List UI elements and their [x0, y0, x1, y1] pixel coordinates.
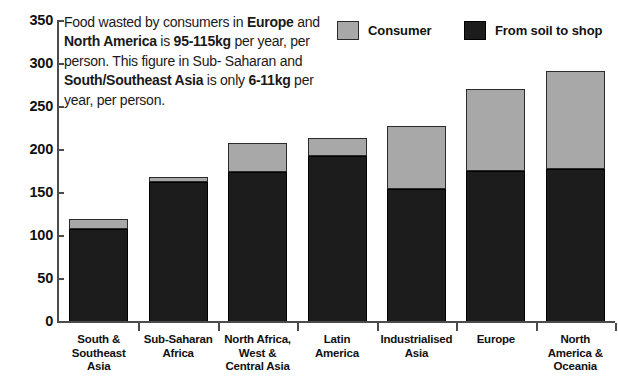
- x-axis-tick: [138, 323, 140, 331]
- x-axis-label: Europe: [456, 333, 535, 347]
- x-axis-tick: [615, 323, 617, 331]
- x-axis-label: South &SoutheastAsia: [59, 333, 138, 374]
- y-axis-tick-label: 350: [3, 13, 53, 28]
- annotation-line2-pre: and: [297, 14, 320, 30]
- bar-segment-from-soil-to-shop[interactable]: [466, 171, 525, 322]
- bar-segment-consumer[interactable]: [546, 71, 605, 169]
- annotation-line5-bold: 6-11kg: [248, 72, 290, 88]
- y-axis-tick-label: 200: [3, 142, 53, 157]
- x-axis-label-line: South &: [59, 333, 138, 347]
- bar-segment-consumer[interactable]: [466, 89, 525, 171]
- bar-segment-consumer[interactable]: [387, 126, 446, 189]
- annotation-line2-bold1: North America: [64, 33, 157, 49]
- x-axis-label-line: Europe: [456, 333, 535, 347]
- x-axis-tick: [536, 323, 538, 331]
- x-axis-label-line: West &: [218, 347, 297, 361]
- bar-segment-from-soil-to-shop[interactable]: [546, 169, 605, 322]
- annotation-line5-pre: is only: [207, 72, 249, 88]
- x-axis-label-line: Industrialised: [377, 333, 456, 347]
- x-axis-label-line: North Africa,: [218, 333, 297, 347]
- legend-item-from-soil-to-shop: From soil to shop: [464, 21, 602, 40]
- bar-segment-consumer[interactable]: [308, 138, 367, 156]
- bar-group[interactable]: [546, 21, 605, 322]
- legend-swatch-from-soil-to-shop-icon: [464, 21, 486, 40]
- bar-segment-consumer[interactable]: [69, 219, 128, 229]
- x-axis-label-line: Central Asia: [218, 360, 297, 374]
- x-axis-label-line: Southeast: [59, 347, 138, 361]
- x-axis-label-line: America: [297, 347, 376, 361]
- y-axis-tick-label: 100: [3, 228, 53, 243]
- legend-label-from-soil-to-shop: From soil to shop: [495, 23, 602, 38]
- annotation-line2-mid: is: [157, 33, 174, 49]
- x-axis-label: NorthAmerica &Oceania: [536, 333, 615, 374]
- bar-segment-consumer[interactable]: [149, 177, 208, 182]
- x-axis-label: IndustrialisedAsia: [377, 333, 456, 360]
- annotation-line2-bold2: 95-115kg: [174, 33, 231, 49]
- annotation-line1-bold: Europe: [247, 14, 294, 30]
- bar-segment-from-soil-to-shop[interactable]: [149, 182, 208, 322]
- x-axis-label: LatinAmerica: [297, 333, 376, 360]
- bar-group[interactable]: [387, 21, 446, 322]
- y-axis-tick-label: 250: [3, 99, 53, 114]
- x-axis-tick: [297, 323, 299, 331]
- x-axis-label-line: Asia: [59, 360, 138, 374]
- x-axis-label: Sub-SaharanAfrica: [138, 333, 217, 360]
- x-axis-label-line: Sub-Saharan: [138, 333, 217, 347]
- x-axis-label-line: Africa: [138, 347, 217, 361]
- annotation-text: Food wasted by consumers in Europe and N…: [64, 13, 332, 110]
- x-axis-tick: [218, 323, 220, 331]
- bar-group[interactable]: [466, 21, 525, 322]
- x-axis-tick: [456, 323, 458, 331]
- x-axis-label-line: America &: [536, 347, 615, 361]
- x-axis-line: [57, 321, 615, 323]
- y-axis-tick-label: 0: [3, 314, 53, 329]
- chart-root: 050100150200250300350 South &SoutheastAs…: [0, 0, 618, 391]
- bar-segment-from-soil-to-shop[interactable]: [69, 229, 128, 322]
- bar-segment-from-soil-to-shop[interactable]: [387, 189, 446, 322]
- x-axis-label-line: Latin: [297, 333, 376, 347]
- x-axis-tick: [377, 323, 379, 331]
- legend-item-consumer: Consumer: [337, 21, 432, 40]
- annotation-line4-pre: Saharan and: [225, 53, 302, 69]
- y-axis-tick-label: 300: [3, 56, 53, 71]
- bar-segment-consumer[interactable]: [228, 143, 287, 172]
- bar-segment-from-soil-to-shop[interactable]: [308, 156, 367, 322]
- annotation-line1-pre: Food wasted by consumers in: [64, 14, 247, 30]
- x-axis-label-line: Asia: [377, 347, 456, 361]
- x-axis-label: North Africa,West &Central Asia: [218, 333, 297, 374]
- bar-segment-from-soil-to-shop[interactable]: [228, 172, 287, 322]
- x-axis-label-line: Oceania: [536, 360, 615, 374]
- legend-label-consumer: Consumer: [368, 23, 432, 38]
- annotation-line4-bold: South/Southeast Asia: [64, 72, 203, 88]
- y-axis-tick-label: 150: [3, 185, 53, 200]
- x-axis-label-line: North: [536, 333, 615, 347]
- legend-swatch-consumer-icon: [337, 21, 359, 40]
- y-axis-tick-label: 50: [3, 271, 53, 286]
